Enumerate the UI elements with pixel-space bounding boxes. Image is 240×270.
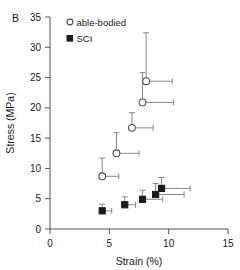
x-tick-label-0: 0: [47, 238, 53, 249]
y-axis-ticks: 05101520253035: [30, 12, 50, 235]
data-point-able-bodied-2: [128, 124, 135, 131]
figure-panel-b: B 05101520253035 051015 Stress (MPa) Str…: [0, 0, 240, 270]
y-axis-title: Stress (MPa): [4, 92, 16, 153]
series-sci: [99, 178, 190, 214]
data-point-able-bodied-1: [113, 150, 120, 157]
data-series-layer: [99, 33, 190, 214]
series-able-bodied: [99, 33, 174, 180]
y-tick-label-20: 20: [30, 102, 42, 113]
x-tick-label-5: 5: [107, 238, 113, 249]
legend-label-sci: SCI: [77, 33, 93, 44]
stress-strain-scatter-chart: B 05101520253035 051015 Stress (MPa) Str…: [0, 0, 240, 270]
data-point-SCI-3: [153, 191, 159, 197]
y-tick-label-25: 25: [30, 72, 42, 83]
x-tick-label-10: 10: [163, 238, 175, 249]
y-tick-label-15: 15: [30, 133, 42, 144]
data-point-SCI-1: [122, 202, 128, 208]
y-tick-label-0: 0: [35, 224, 41, 235]
legend-filled-square-icon: [67, 36, 73, 42]
y-tick-label-30: 30: [30, 42, 42, 53]
data-point-able-bodied-3: [139, 99, 146, 106]
y-tick-label-10: 10: [30, 163, 42, 174]
chart-legend: able-bodied SCI: [67, 17, 126, 44]
legend-open-circle-icon: [67, 19, 73, 25]
y-tick-label-5: 5: [35, 193, 41, 204]
x-axis-title: Strain (%): [116, 255, 163, 267]
x-tick-label-15: 15: [222, 238, 234, 249]
data-point-SCI-0: [99, 208, 105, 214]
x-axis-ticks: 051015: [47, 229, 234, 249]
data-point-able-bodied-4: [143, 78, 150, 85]
data-point-SCI-2: [139, 196, 145, 202]
legend-label-able-bodied: able-bodied: [77, 17, 127, 28]
panel-label: B: [12, 12, 19, 24]
data-point-able-bodied-0: [99, 173, 106, 180]
data-point-SCI-4: [158, 185, 164, 191]
y-tick-label-35: 35: [30, 12, 42, 23]
